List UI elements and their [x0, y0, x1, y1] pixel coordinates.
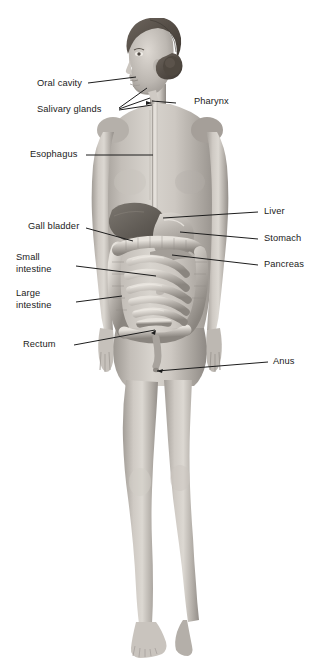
- label-oral-cavity: Oral cavity: [37, 78, 82, 90]
- leader-oral-cavity: [88, 77, 136, 83]
- label-large-intestine: Large intestine: [16, 288, 52, 311]
- rectum-organ: [156, 338, 158, 366]
- label-stomach: Stomach: [264, 233, 301, 245]
- label-pharynx: Pharynx: [194, 96, 229, 108]
- label-rectum: Rectum: [23, 339, 56, 351]
- label-pancreas: Pancreas: [264, 259, 304, 271]
- label-gall-bladder: Gall bladder: [28, 221, 79, 233]
- digestive-system-figure: Oral cavity Salivary glands Esophagus Ga…: [0, 0, 319, 665]
- label-small-intestine: Small intestine: [16, 252, 52, 275]
- label-salivary-glands: Salivary glands: [37, 104, 102, 116]
- anatomy-illustration: [0, 0, 319, 665]
- label-anus: Anus: [273, 356, 295, 368]
- label-esophagus: Esophagus: [30, 149, 77, 161]
- anus-organ: [153, 368, 159, 372]
- label-liver: Liver: [264, 206, 285, 218]
- leader-salivary-1: [119, 88, 147, 108]
